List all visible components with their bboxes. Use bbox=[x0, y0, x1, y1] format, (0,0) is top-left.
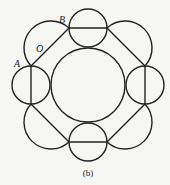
small-circle-top bbox=[69, 9, 107, 47]
diagram-figure: B O A (b) bbox=[0, 0, 170, 185]
small-circle-right bbox=[126, 66, 164, 104]
small-circle-left bbox=[12, 66, 50, 104]
figure-caption: (b) bbox=[83, 168, 94, 178]
label-A: A bbox=[13, 58, 21, 69]
label-B: B bbox=[59, 14, 65, 25]
label-O: O bbox=[36, 43, 43, 54]
small-circle-bottom bbox=[69, 123, 107, 161]
central-circle bbox=[51, 48, 125, 122]
